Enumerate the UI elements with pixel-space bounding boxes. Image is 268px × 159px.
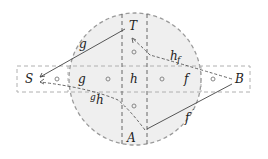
region-h: h [130,72,138,86]
diagram-canvas: T S B A g h f g h f g h f ′ [0,0,268,159]
label-f-prime-mark: ′ [192,108,194,118]
label-g-h: h [96,93,104,107]
dot [55,77,59,81]
label-g: g [79,37,87,51]
dot [211,77,215,81]
node-B: B [234,72,244,86]
region-g: g [78,72,86,86]
node-T: T [129,19,138,33]
node-A: A [126,131,136,145]
node-S: S [25,72,33,86]
